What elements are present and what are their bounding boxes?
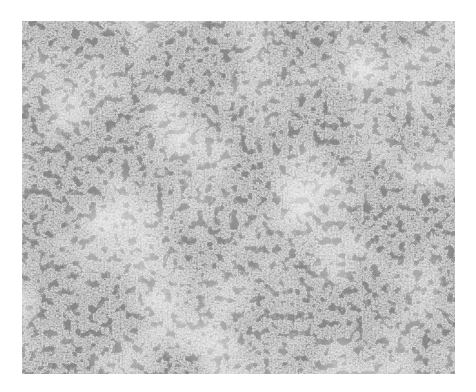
- micrograph-image: [22, 21, 455, 374]
- micrograph-texture: [22, 21, 455, 374]
